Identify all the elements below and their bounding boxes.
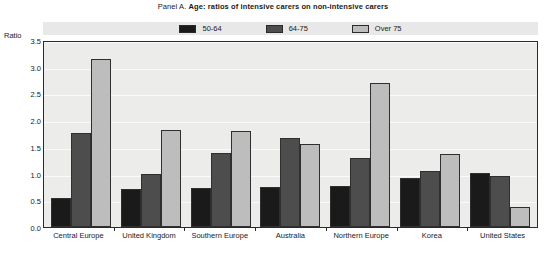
x-tick-label: Australia bbox=[255, 231, 326, 240]
bar bbox=[490, 176, 510, 227]
bar bbox=[440, 154, 460, 227]
bar bbox=[420, 171, 440, 227]
legend-item: Over 75 bbox=[352, 25, 402, 33]
bar bbox=[71, 133, 91, 227]
plot-area bbox=[43, 41, 538, 228]
chart-legend: 50-6464-75Over 75 bbox=[43, 22, 538, 35]
bar-group bbox=[260, 42, 320, 227]
x-tick-label: United Kingdom bbox=[114, 231, 185, 240]
x-tick-label: Central Europe bbox=[43, 231, 114, 240]
legend-label: 50-64 bbox=[202, 25, 221, 33]
bar bbox=[141, 174, 161, 227]
legend-swatch-icon bbox=[352, 25, 369, 33]
bar bbox=[400, 178, 420, 227]
bar bbox=[330, 186, 350, 227]
x-axis-labels: Central EuropeUnited KingdomSouthern Eur… bbox=[43, 231, 538, 240]
bar bbox=[121, 189, 141, 227]
bar bbox=[51, 198, 71, 227]
x-tick-label: Southern Europe bbox=[184, 231, 255, 240]
bar-group bbox=[400, 42, 460, 227]
bar-group bbox=[121, 42, 181, 227]
bar bbox=[470, 173, 490, 227]
bar bbox=[370, 83, 390, 227]
bar bbox=[91, 59, 111, 227]
y-tick-label: 2.5 bbox=[0, 90, 41, 99]
x-tick-label: Korea bbox=[397, 231, 468, 240]
bar-group bbox=[191, 42, 251, 227]
legend-swatch-icon bbox=[266, 25, 283, 33]
bar-group bbox=[330, 42, 390, 227]
legend-item: 64-75 bbox=[266, 25, 308, 33]
bar bbox=[161, 130, 181, 227]
bar-group bbox=[470, 42, 530, 227]
bar bbox=[211, 153, 231, 227]
legend-item: 50-64 bbox=[179, 25, 221, 33]
bar bbox=[191, 188, 211, 227]
bars-layer bbox=[44, 42, 537, 227]
panel-title-text: Age: ratios of intensive carers on non-i… bbox=[189, 2, 389, 11]
chart-figure: Panel A. Age: ratios of intensive carers… bbox=[0, 0, 546, 253]
bar-group bbox=[51, 42, 111, 227]
y-tick-label: 0.0 bbox=[0, 224, 41, 233]
bar bbox=[350, 158, 370, 227]
bar bbox=[260, 187, 280, 227]
y-tick-label: 1.5 bbox=[0, 143, 41, 152]
panel-label: Panel A. bbox=[158, 2, 187, 11]
bar bbox=[300, 144, 320, 227]
page-title: Panel A. Age: ratios of intensive carers… bbox=[0, 2, 546, 11]
legend-label: Over 75 bbox=[375, 25, 402, 33]
legend-label: 64-75 bbox=[289, 25, 308, 33]
y-tick-label: 2.0 bbox=[0, 117, 41, 126]
x-tick-label: United States bbox=[467, 231, 538, 240]
y-tick-label: 3.5 bbox=[0, 37, 41, 46]
y-tick-label: 0.5 bbox=[0, 197, 41, 206]
bar bbox=[231, 131, 251, 227]
bar bbox=[280, 138, 300, 227]
legend-swatch-icon bbox=[179, 25, 196, 33]
x-tick-label: Northern Europe bbox=[326, 231, 397, 240]
y-tick-label: 1.0 bbox=[0, 170, 41, 179]
bar bbox=[510, 207, 530, 227]
y-tick-label: 3.0 bbox=[0, 63, 41, 72]
